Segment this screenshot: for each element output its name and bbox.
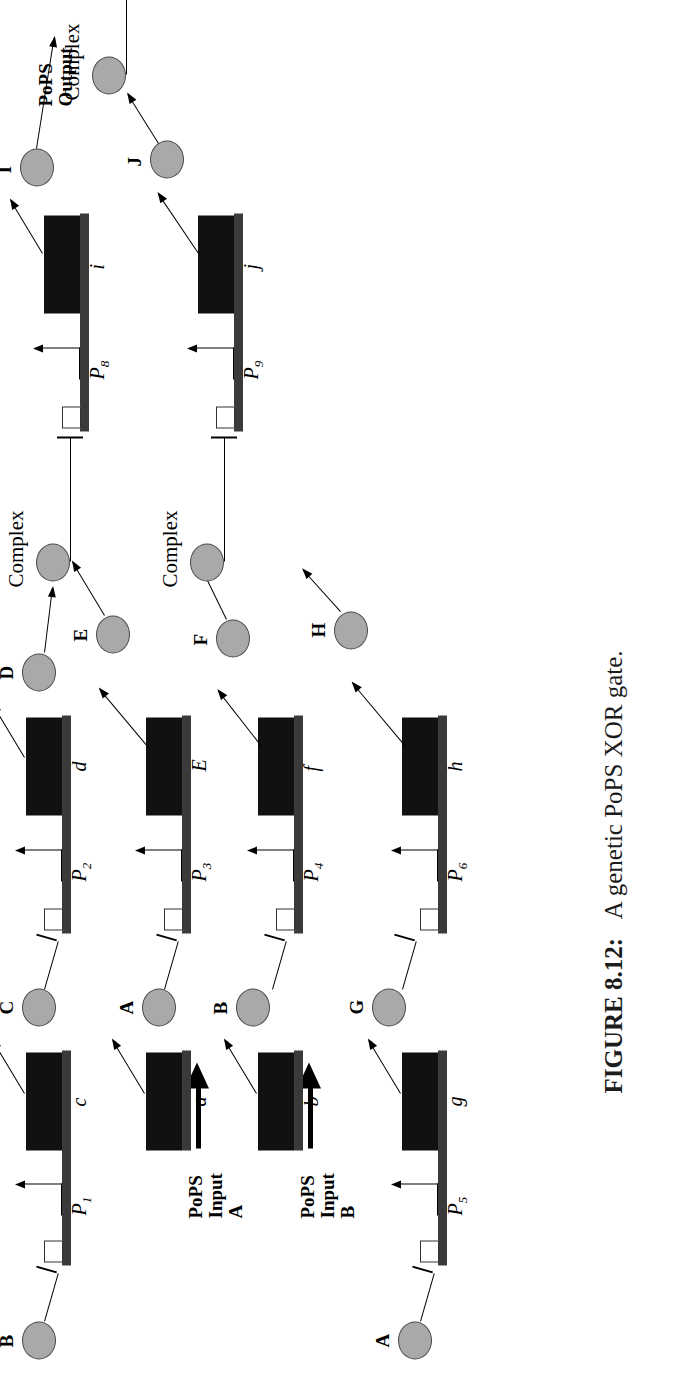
repression-tee-B2	[264, 934, 285, 941]
promoter-arrow-P2	[24, 880, 62, 881]
promoter-label-P8: P8	[86, 360, 113, 379]
gene-block-E	[146, 717, 182, 815]
protein-label-F: F	[190, 633, 212, 645]
protein-label-E: E	[70, 628, 92, 641]
repression-tee-complexFH	[211, 436, 237, 438]
gene-label-d: d	[68, 761, 91, 771]
repression-connector-B2	[272, 941, 287, 989]
dna-backbone-c	[62, 1050, 71, 1265]
rotated-figure-wrapper: B P1 c C	[0, 0, 682, 1393]
promoter-label-P2: P2	[68, 862, 95, 881]
protein-node-B2	[236, 988, 270, 1026]
gene-label-i: i	[86, 263, 109, 269]
operator-box-P8	[62, 406, 81, 428]
protein-node-E	[96, 615, 130, 653]
repression-tee-A2	[412, 1266, 433, 1273]
protein-node-B1	[22, 1321, 56, 1359]
promoter-arrow-P5	[400, 1214, 438, 1215]
dna-backbone-d	[62, 715, 71, 933]
complex-label-DE: Complex	[4, 510, 29, 587]
protein-node-A1	[142, 988, 176, 1026]
production-arrow-i-to-I	[10, 200, 43, 254]
figure-caption: FIGURE 8.12: A genetic PoPS XOR gate.	[600, 650, 628, 1093]
promoter-label-P4: P4	[300, 862, 327, 881]
gene-label-a: a	[188, 1096, 211, 1106]
repression-connector-B1	[44, 1273, 59, 1321]
production-arrow-h-to-H	[352, 682, 407, 747]
gene-block-i	[44, 215, 80, 313]
dna-backbone-h	[438, 715, 447, 933]
protein-label-G: G	[346, 999, 368, 1014]
complex-label-FH: Complex	[158, 510, 183, 587]
repression-connector-A2	[420, 1273, 435, 1321]
repression-tee-C	[36, 934, 57, 941]
protein-label-A2: A	[372, 1333, 394, 1347]
complex-node-DE	[36, 543, 70, 581]
binding-arrow-E-to-complex	[72, 562, 105, 616]
promoter-arrow-P3	[144, 880, 182, 881]
promoter-label-P3: P3	[188, 862, 215, 881]
gene-label-h: h	[444, 761, 467, 771]
dna-backbone-g	[438, 1050, 447, 1265]
production-arrow-c-to-C	[0, 1040, 25, 1094]
repression-tee-G	[394, 934, 415, 941]
production-arrow-f-to-F	[218, 690, 263, 748]
operator-box-P6	[420, 908, 439, 930]
repression-tee-A1	[156, 934, 177, 941]
protein-node-C	[22, 988, 56, 1026]
promoter-label-P9: P9	[240, 360, 267, 379]
promoter-arrow-P6	[400, 880, 438, 881]
gene-block-c	[26, 1052, 62, 1150]
operator-box-P9	[216, 406, 235, 428]
repression-line-complexFH-P9	[224, 437, 225, 561]
production-arrow-a-to-A	[112, 1040, 145, 1094]
protein-label-A1: A	[116, 1000, 138, 1014]
diagram-canvas: B P1 c C	[0, 0, 682, 1393]
figure-caption-text: A genetic PoPS XOR gate.	[600, 650, 627, 919]
promoter-label-P5: P5	[444, 1196, 471, 1215]
protein-label-H: H	[308, 622, 330, 637]
production-arrow-b-to-B2	[224, 1040, 257, 1094]
operator-box-P2	[44, 908, 63, 930]
binding-arrow-D-to-complex	[44, 587, 53, 652]
gene-block-j	[198, 215, 234, 313]
operator-box-P1	[44, 1240, 63, 1262]
gene-block-a	[146, 1052, 182, 1150]
dna-backbone-f	[294, 715, 303, 933]
repression-connector-G	[402, 941, 417, 989]
repression-connector-C	[44, 941, 59, 989]
production-arrow-d-to-D	[0, 704, 25, 758]
promoter-arrow-P4	[256, 880, 294, 881]
production-arrow-g-to-G	[368, 1040, 401, 1094]
gene-label-c: c	[68, 1097, 91, 1106]
repression-line-complexIJ-P10	[126, 0, 127, 74]
promoter-label-P6: P6	[444, 862, 471, 881]
protein-node-J	[150, 140, 184, 178]
protein-label-C: C	[0, 1000, 18, 1014]
protein-node-I	[20, 148, 54, 186]
figure-number: FIGURE 8.12:	[600, 937, 627, 1093]
protein-node-G	[372, 988, 406, 1026]
protein-node-A2	[398, 1321, 432, 1359]
operator-box-P4	[276, 908, 295, 930]
protein-node-F	[216, 619, 250, 657]
operator-box-P5	[420, 1240, 439, 1262]
protein-label-D: D	[0, 665, 18, 679]
repression-tee-B1	[36, 1266, 57, 1273]
gene-label-f: f	[300, 765, 323, 771]
gene-block-b	[258, 1052, 294, 1150]
binding-arrow-H-to-complexFH	[303, 569, 341, 611]
dna-backbone-E	[182, 715, 191, 933]
gene-block-d	[26, 717, 62, 815]
gene-block-h	[402, 717, 438, 815]
dna-backbone-i	[80, 213, 89, 431]
promoter-label-P1: P1	[68, 1196, 95, 1215]
promoter-arrow-P9	[196, 378, 234, 379]
production-arrow-E-to-Eprot	[99, 688, 149, 747]
repression-tee-complexDE	[57, 436, 83, 438]
promoter-arrow-P1	[24, 1214, 62, 1215]
gene-label-E: E	[188, 759, 211, 771]
binding-arrow-J-to-complexIJ	[127, 93, 159, 143]
protein-node-D	[22, 653, 56, 691]
protein-label-B2: B	[210, 1001, 232, 1014]
